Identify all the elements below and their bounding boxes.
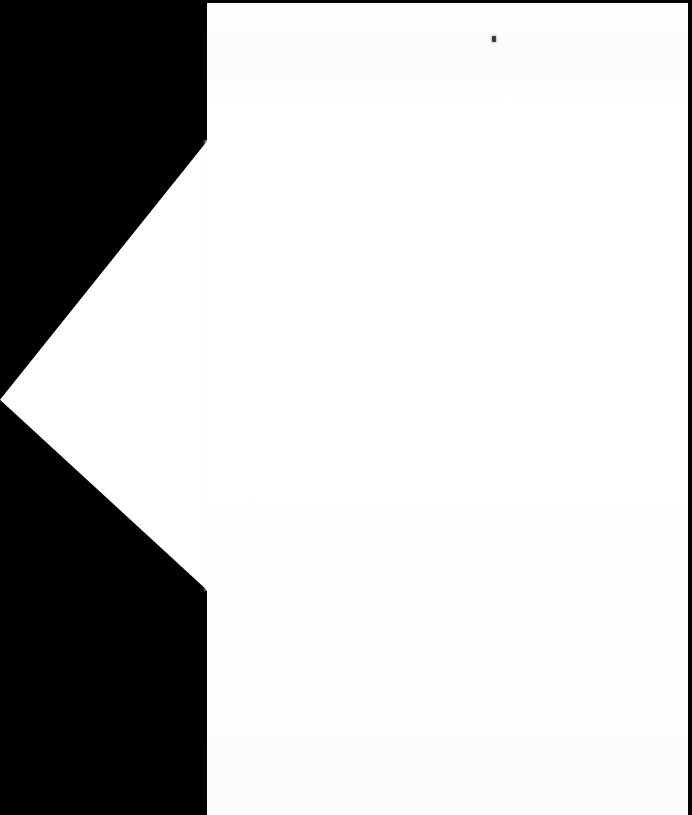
page-body	[207, 0, 688, 815]
ink-speck-mark	[492, 36, 496, 42]
scan-edge-top	[207, 0, 692, 3]
paper-texture	[207, 0, 688, 815]
document-scan-canvas	[0, 0, 692, 815]
scan-edge-right	[688, 0, 692, 815]
wedge-seam	[203, 140, 208, 591]
